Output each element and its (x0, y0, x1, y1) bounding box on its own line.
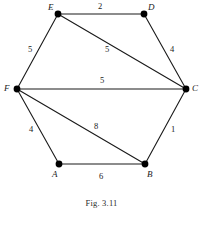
vertex-label-d: D (148, 3, 155, 12)
graph-edge-e-c (58, 14, 186, 89)
edge-weight-f-c: 5 (100, 76, 104, 85)
edges-group (17, 14, 186, 164)
edge-weight-f-a: 4 (29, 125, 33, 134)
graph-edge-e-f (17, 14, 58, 89)
edge-weight-e-f: 5 (28, 45, 32, 54)
edge-weight-a-b: 6 (99, 172, 103, 181)
graph-canvas (0, 0, 203, 229)
edge-weight-d-c: 4 (170, 45, 174, 54)
graph-vertex-f (14, 86, 21, 93)
figure-caption: Fig. 3.11 (0, 198, 203, 208)
edge-weight-f-b: 8 (94, 122, 98, 131)
vertex-label-f: F (4, 84, 10, 93)
graph-edge-c-b (145, 89, 186, 164)
graph-vertex-c (183, 86, 190, 93)
vertex-label-a: A (52, 170, 58, 179)
figure-container: 245554816EDCBAF Fig. 3.11 (0, 0, 203, 229)
graph-vertex-a (56, 161, 63, 168)
edge-weight-e-c: 5 (105, 45, 109, 54)
graph-edge-f-b (17, 89, 145, 164)
edge-weight-c-b: 1 (171, 125, 175, 134)
vertex-label-c: C (192, 84, 198, 93)
edge-weight-e-d: 2 (98, 2, 102, 11)
graph-edge-d-c (144, 14, 186, 89)
graph-vertex-b (142, 161, 149, 168)
vertex-label-b: B (147, 170, 153, 179)
graph-vertex-d (141, 11, 148, 18)
graph-vertex-e (55, 11, 62, 18)
vertex-label-e: E (48, 3, 54, 12)
graph-edge-f-a (17, 89, 59, 164)
